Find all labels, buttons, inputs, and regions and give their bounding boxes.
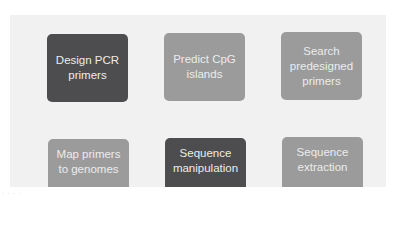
- search-predesigned-primers-button[interactable]: Search predesigned primers: [281, 32, 362, 100]
- design-pcr-primers-button[interactable]: Design PCR primers: [47, 34, 128, 102]
- card-label: Design PCR primers: [53, 53, 122, 83]
- sequence-manipulation-button[interactable]: Sequence manipulation: [165, 138, 246, 187]
- map-primers-to-genomes-button[interactable]: Map primers to genomes: [48, 139, 129, 187]
- sequence-extraction-button[interactable]: Sequence extraction: [282, 137, 363, 187]
- card-label: Sequence manipulation: [171, 146, 240, 176]
- footer-text: · · · ·: [2, 190, 22, 196]
- card-label: Search predesigned primers: [287, 44, 356, 89]
- card-label: Map primers to genomes: [54, 147, 123, 177]
- card-label: Sequence extraction: [288, 145, 357, 175]
- card-label: Predict CpG islands: [170, 52, 239, 82]
- predict-cpg-islands-button[interactable]: Predict CpG islands: [164, 33, 245, 101]
